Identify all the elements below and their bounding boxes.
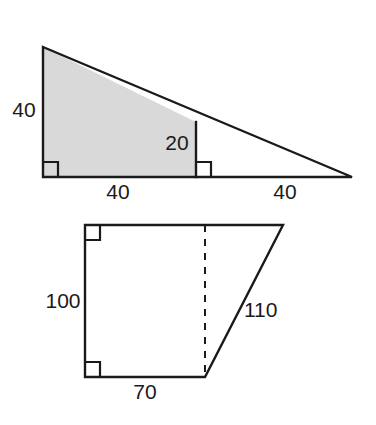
top-triangle-figure: 40 20 40 40	[12, 47, 352, 203]
divider-height-label: 20	[165, 131, 188, 154]
bottom-side-label: 70	[133, 380, 156, 403]
base-right-label: 40	[273, 180, 296, 203]
left-side-label: 100	[45, 289, 80, 312]
right-angle-top-left	[85, 225, 100, 240]
bottom-trapezoid-figure: 100 110 70	[45, 225, 283, 403]
base-left-label: 40	[106, 180, 129, 203]
right-angle-bottom-divider	[196, 162, 211, 177]
right-angle-bottom-left	[85, 362, 100, 377]
geometry-diagram-canvas: 40 20 40 40 100 110 70	[0, 0, 376, 425]
slant-side-label: 110	[244, 298, 277, 321]
geometry-figure-sheet: 40 20 40 40 100 110 70	[0, 0, 376, 425]
left-height-label: 40	[12, 98, 35, 121]
shaded-trapezoid-region	[43, 47, 196, 177]
